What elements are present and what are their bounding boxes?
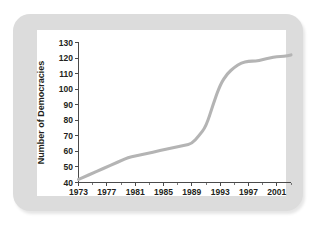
y-tick-label: 50 <box>64 162 74 172</box>
x-tick-label: 1985 <box>154 187 173 197</box>
data-series-line <box>79 55 292 179</box>
line-chart: 19731977198119851989199319972001 4050607… <box>0 0 321 226</box>
y-tick-label: 80 <box>64 115 74 125</box>
x-tick-label: 1981 <box>126 187 145 197</box>
x-tick-label: 1989 <box>182 187 201 197</box>
x-tick-label: 2001 <box>267 187 286 197</box>
y-tick-label: 40 <box>64 178 74 188</box>
x-axis-tick-labels: 19731977198119851989199319972001 <box>69 187 287 197</box>
y-tick-label: 70 <box>64 131 74 141</box>
y-tick-label: 130 <box>59 38 73 48</box>
y-tick-label: 90 <box>64 100 74 110</box>
y-axis-tick-labels: 405060708090100110120130 <box>59 38 73 188</box>
chart-plot-area: 19731977198119851989199319972001 4050607… <box>0 0 321 226</box>
y-tick-label: 110 <box>59 69 73 79</box>
y-tick-label: 100 <box>59 84 73 94</box>
x-tick-label: 1973 <box>69 187 88 197</box>
y-tick-label: 120 <box>59 53 73 63</box>
y-tick-label: 60 <box>64 146 74 156</box>
y-axis-title: Number of Democracies <box>36 61 46 165</box>
x-tick-label: 1993 <box>211 187 230 197</box>
x-tick-label: 1997 <box>239 187 258 197</box>
x-tick-label: 1977 <box>97 187 116 197</box>
